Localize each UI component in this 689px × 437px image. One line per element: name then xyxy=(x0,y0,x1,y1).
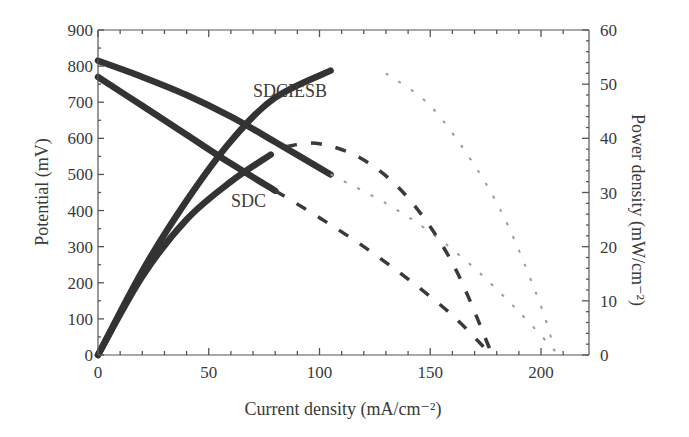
svg-text:50: 50 xyxy=(200,363,217,382)
series-label-sdc: SDC xyxy=(231,191,266,211)
svg-text:30: 30 xyxy=(600,184,617,203)
svg-text:600: 600 xyxy=(68,129,94,148)
chart: 0501001502000100200300400500600700800900… xyxy=(0,0,689,437)
y2-axis-title: Power density (mW/cm⁻²) xyxy=(627,114,648,306)
svg-text:50: 50 xyxy=(600,75,617,94)
svg-text:40: 40 xyxy=(600,129,617,148)
svg-text:100: 100 xyxy=(307,363,333,382)
svg-text:0: 0 xyxy=(94,363,103,382)
svg-text:20: 20 xyxy=(600,238,617,257)
series-label-sdciesb: SDCIESB xyxy=(253,81,327,101)
series-line-2 xyxy=(98,71,331,355)
svg-text:200: 200 xyxy=(528,363,554,382)
y-axis-title: Potential (mV) xyxy=(32,138,53,245)
svg-text:100: 100 xyxy=(68,310,94,329)
plot-frame xyxy=(98,30,589,355)
svg-text:0: 0 xyxy=(600,346,609,365)
svg-text:300: 300 xyxy=(68,238,94,257)
svg-text:700: 700 xyxy=(68,93,94,112)
svg-text:150: 150 xyxy=(418,363,444,382)
x-axis-title: Current density (mA/cm⁻²) xyxy=(245,399,442,420)
plot-area xyxy=(98,61,559,355)
series-line-3 xyxy=(386,73,554,349)
svg-text:900: 900 xyxy=(68,21,94,40)
svg-text:800: 800 xyxy=(68,57,94,76)
svg-text:400: 400 xyxy=(68,202,94,221)
svg-text:10: 10 xyxy=(600,292,617,311)
svg-text:200: 200 xyxy=(68,274,94,293)
svg-text:60: 60 xyxy=(600,21,617,40)
series-line-6 xyxy=(98,155,271,355)
svg-text:500: 500 xyxy=(68,165,94,184)
svg-text:0: 0 xyxy=(85,346,94,365)
series-line-7 xyxy=(286,143,490,349)
